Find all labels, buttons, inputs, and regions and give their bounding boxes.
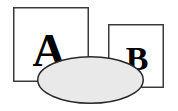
venn-diagram: A B — [0, 0, 178, 111]
ellipse-shape[interactable] — [38, 57, 144, 104]
diagram-canvas: A B — [0, 0, 178, 111]
